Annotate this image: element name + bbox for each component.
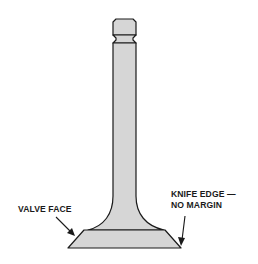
valve-tip	[113, 19, 136, 35]
valve-stem	[88, 43, 164, 230]
valve-face-label: VALVE FACE	[18, 204, 72, 214]
knife-edge-label-line1: KNIFE EDGE —	[171, 189, 236, 199]
knife-edge-leader	[182, 216, 185, 240]
knife-edge-arrowhead	[178, 237, 185, 246]
keeper-groove	[113, 35, 136, 43]
knife-edge-label-line2: NO MARGIN	[171, 200, 222, 210]
valve-head	[68, 230, 181, 248]
valve-diagram: VALVE FACE KNIFE EDGE — NO MARGIN	[0, 0, 258, 264]
